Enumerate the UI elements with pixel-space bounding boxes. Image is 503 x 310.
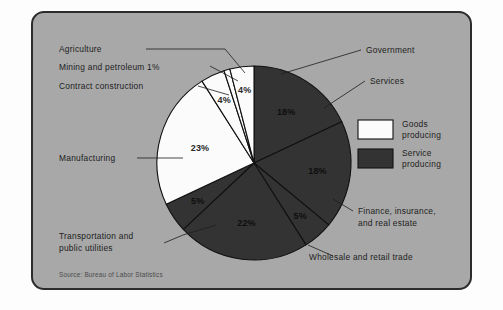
legend: Goods producing Service producing <box>358 119 441 169</box>
callout-mining: Mining and petroleum 1% <box>59 62 160 72</box>
pie-chart-svg: 18%18%5%22%5%23%4%4% Agriculture Mining … <box>33 13 472 290</box>
pie-slices-group <box>157 66 351 260</box>
pie-pct-label-transportation-and-public-utilities: 5% <box>191 196 204 206</box>
leader-line-government <box>281 50 361 74</box>
callout-wholesale: Wholesale and retail trade <box>309 252 413 262</box>
callout-manufacturing: Manufacturing <box>59 153 115 163</box>
legend-label-service-line2: producing <box>402 159 441 169</box>
callout-government: Government <box>366 45 415 55</box>
pie-pct-label-government: 18% <box>277 107 296 117</box>
callout-finance-line1: Finance, insurance, <box>358 206 436 216</box>
legend-label-service-line1: Service <box>402 148 432 158</box>
callout-services: Services <box>370 76 404 86</box>
source-note: Source: Bureau of Labor Statistics <box>59 271 163 278</box>
chart-card: 18%18%5%22%5%23%4%4% Agriculture Mining … <box>31 11 472 290</box>
callout-transportation-line1: Transportation and <box>59 231 134 241</box>
pie-pct-label-manufacturing: 23% <box>191 143 210 153</box>
figure-root: 18%18%5%22%5%23%4%4% Agriculture Mining … <box>0 0 503 310</box>
callout-transportation-line2: public utilities <box>59 243 113 253</box>
pie-pct-label-finance-insurance-and-real-estate: 5% <box>293 211 306 221</box>
pie-pct-label-contract-construction: 4% <box>218 95 231 105</box>
callout-agriculture: Agriculture <box>59 44 102 54</box>
pie-pct-label-services: 18% <box>308 166 327 176</box>
legend-swatch-service-producing <box>358 149 393 168</box>
pie-pct-label-agriculture: 4% <box>238 85 251 95</box>
pie-pct-label-wholesale-and-retail-trade: 22% <box>237 218 256 228</box>
leader-line-services <box>324 81 365 108</box>
legend-label-goods-line1: Goods <box>402 119 428 129</box>
legend-label-goods-line2: producing <box>402 130 441 140</box>
callout-finance-line2: and real estate <box>358 218 417 228</box>
callout-contract-construction: Contract construction <box>59 81 143 91</box>
legend-swatch-goods-producing <box>358 120 393 139</box>
